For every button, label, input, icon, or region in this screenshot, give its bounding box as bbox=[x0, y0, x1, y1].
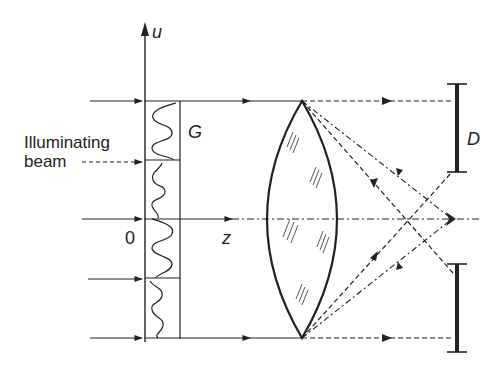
origin-label: 0 bbox=[125, 229, 135, 247]
detector-label: D bbox=[467, 130, 480, 148]
grating-wave-1 bbox=[152, 103, 176, 160]
grating-wave-2 bbox=[152, 163, 165, 218]
diagram-canvas bbox=[0, 0, 502, 367]
beam-label-line1: Illuminating bbox=[24, 133, 110, 152]
z-axis-label: z bbox=[222, 229, 231, 247]
optical-diagram: u z 0 G Illuminating beam D bbox=[0, 0, 502, 367]
beam-label-line2: beam bbox=[24, 152, 67, 171]
grating-wave-4 bbox=[150, 281, 163, 338]
u-axis-label: u bbox=[152, 23, 162, 41]
grating-label: G bbox=[188, 123, 202, 141]
grating bbox=[145, 101, 180, 339]
u-axis-arrow-icon bbox=[141, 22, 149, 36]
u-axis bbox=[141, 22, 149, 342]
grating-wave-3 bbox=[152, 219, 173, 278]
